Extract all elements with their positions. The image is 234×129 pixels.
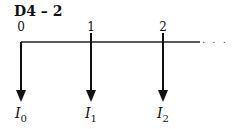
flow-label-1: I1 xyxy=(85,105,97,124)
tick-label-1: 1 xyxy=(87,20,95,34)
arrow-head-0 xyxy=(16,90,26,102)
tick-label-0: 0 xyxy=(17,20,25,34)
timeline-graphic xyxy=(0,0,234,129)
arrow-head-2 xyxy=(158,90,168,102)
flow-label-0: I0 xyxy=(15,105,27,124)
flow-label-2: I2 xyxy=(157,105,169,124)
arrow-head-1 xyxy=(86,90,96,102)
continuation-dots: . . . xyxy=(202,34,228,45)
tick-label-2: 2 xyxy=(159,20,167,34)
